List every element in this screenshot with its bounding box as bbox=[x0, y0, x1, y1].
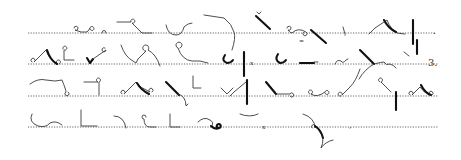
line4-comma: , bbox=[349, 121, 352, 130]
line4-x-mark: x bbox=[262, 123, 266, 130]
outline-l1-o1 bbox=[74, 26, 94, 32]
outline-l2-o2 bbox=[63, 46, 74, 60]
outline-l2-o3b bbox=[93, 48, 106, 59]
outline-l3-o2 bbox=[84, 78, 101, 95]
outline-l2-o11 bbox=[360, 50, 374, 64]
outline-l1-o7b bbox=[311, 30, 326, 43]
outline-l3-o1 bbox=[30, 80, 69, 96]
outline-l4-o4 bbox=[142, 115, 156, 127]
outline-l4-o8c bbox=[321, 138, 333, 148]
text-marks: 3..xx=,, bbox=[250, 26, 438, 130]
outline-l2-o12 bbox=[404, 52, 409, 56]
outline-l2-o3 bbox=[87, 58, 93, 63]
outline-l3-o9 bbox=[309, 90, 329, 96]
outline-l2-o5 bbox=[176, 42, 208, 63]
outline-l4-o8 bbox=[303, 114, 316, 128]
outline-l4-o1 bbox=[31, 114, 62, 127]
shorthand-page: 3..xx=,, bbox=[0, 0, 461, 160]
outline-l2-o8 bbox=[276, 54, 286, 63]
outline-l3-o8 bbox=[266, 82, 276, 94]
outline-l2-o4 bbox=[121, 45, 160, 66]
outline-l2-o1b bbox=[47, 50, 57, 64]
outline-l1-o6b bbox=[257, 12, 261, 14]
outline-l2-o10 bbox=[335, 59, 348, 64]
outline-l4-o8b bbox=[315, 126, 323, 138]
shorthand-sheet: 3..xx=,, bbox=[0, 0, 461, 160]
line2-numeral: 3. bbox=[428, 57, 438, 68]
outline-l4-o3 bbox=[114, 116, 126, 128]
line1-period: . bbox=[433, 26, 436, 36]
outline-l1-o9 bbox=[369, 20, 405, 34]
outline-l1-o3 bbox=[117, 19, 152, 33]
shorthand-outlines bbox=[30, 12, 433, 148]
line2-x-mark: x bbox=[250, 59, 254, 66]
line1-equals-mark: = bbox=[299, 37, 304, 44]
line1-comma: , bbox=[344, 29, 346, 37]
outline-l2-o6 bbox=[223, 55, 233, 63]
outline-l3-o6 bbox=[221, 88, 233, 94]
outline-l3-o11 bbox=[379, 78, 392, 92]
outline-l4-o6 bbox=[198, 118, 213, 126]
outline-l2-o11b bbox=[359, 62, 396, 79]
outline-l1-o5 bbox=[204, 15, 235, 50]
outline-l4-o7 bbox=[240, 114, 258, 116]
outline-l2-o1 bbox=[31, 50, 60, 64]
outline-l4-o2 bbox=[81, 110, 97, 126]
outline-l4-o5 bbox=[170, 114, 180, 127]
outline-l3-o4 bbox=[166, 82, 179, 95]
outline-l3-o10 bbox=[338, 69, 360, 96]
outline-l1-o6 bbox=[256, 16, 270, 29]
outline-l1-o7 bbox=[287, 26, 307, 35]
outline-l3-o5 bbox=[193, 76, 201, 88]
